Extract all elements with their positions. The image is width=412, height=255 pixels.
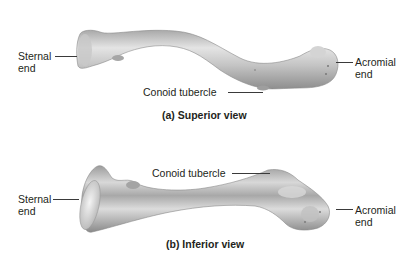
clavicle-superior-view	[77, 30, 338, 90]
superior-view-caption: (a) Superior view	[162, 109, 247, 121]
inferior-acromial-end-label: Acromial end	[355, 204, 396, 228]
label-line: end	[355, 68, 396, 80]
label-line: Acromial	[355, 204, 396, 216]
label-line: end	[18, 62, 51, 74]
superior-conoid-tubercle-leader	[228, 92, 263, 93]
label-line: Sternal	[18, 193, 51, 205]
label-line: end	[18, 205, 51, 217]
superior-conoid-tubercle-label: Conoid tubercle	[143, 86, 217, 98]
inferior-view-caption: (b) Inferior view	[166, 238, 244, 250]
label-line: Acromial	[355, 56, 396, 68]
inferior-conoid-tubercle-leader	[232, 173, 270, 174]
inferior-sternal-end-label: Sternal end	[18, 193, 51, 217]
superior-sternal-end-leader	[55, 56, 77, 57]
inferior-acromial-end-leader	[336, 209, 353, 210]
superior-sternal-end-label: Sternal end	[18, 50, 51, 74]
label-line: Sternal	[18, 50, 51, 62]
label-line: end	[355, 216, 396, 228]
inferior-sternal-end-leader	[53, 199, 79, 200]
superior-acromial-end-label: Acromial end	[355, 56, 396, 80]
superior-acromial-end-leader	[336, 62, 353, 63]
inferior-conoid-tubercle-label: Conoid tubercle	[152, 167, 226, 179]
clavicle-illustrations	[0, 0, 412, 255]
